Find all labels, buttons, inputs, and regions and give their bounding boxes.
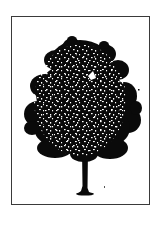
tree-illustration (0, 0, 158, 225)
